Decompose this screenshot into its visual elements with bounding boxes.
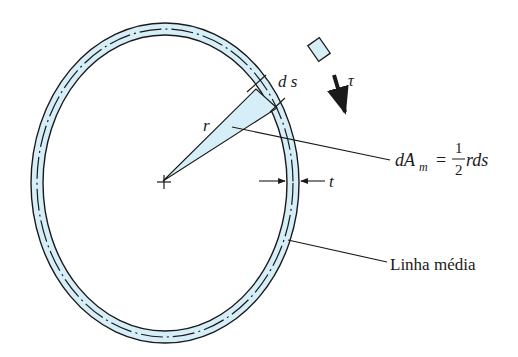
diagram-canvas: d s r τ t dA m = 1 2 rds Linha média: [0, 0, 518, 357]
formula-numerator: 1: [455, 140, 463, 156]
wall-inner-boundary: [43, 35, 287, 331]
label-median-line: Linha média: [390, 255, 476, 274]
label-tau: τ: [348, 72, 355, 89]
label-r: r: [203, 116, 210, 135]
shear-element: [308, 38, 345, 112]
tau-arrow: [334, 75, 345, 112]
formula-subscript: m: [419, 160, 428, 174]
label-ds: d s: [278, 72, 298, 91]
formula-equals: =: [436, 150, 446, 170]
tube-wall: [31, 23, 299, 343]
stress-element-square: [308, 38, 330, 62]
formula-rhs: rds: [466, 150, 488, 170]
label-t: t: [329, 172, 335, 191]
median-leader-line: [288, 240, 387, 262]
formula-denominator: 2: [455, 162, 463, 178]
area-formula: dA m = 1 2 rds: [395, 140, 488, 178]
formula-lhs: dA: [395, 150, 416, 170]
